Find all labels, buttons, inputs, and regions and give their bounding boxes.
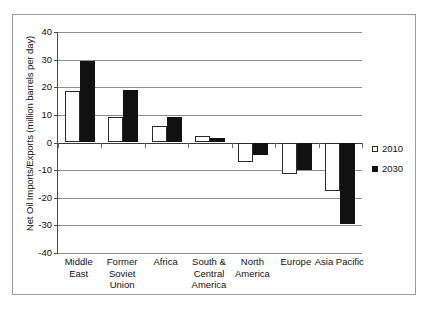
y-tick-label: 20 (22, 82, 52, 92)
y-tick-label: 10 (22, 110, 52, 120)
y-tick-label: -30 (22, 220, 52, 230)
bar-2010-europe (282, 143, 297, 175)
category-label-line: Asia Pacific (314, 256, 365, 268)
y-tick-label: -10 (22, 165, 52, 175)
x-tick-mark (101, 143, 102, 148)
x-tick-mark (319, 143, 320, 148)
y-tick-mark (54, 87, 58, 88)
y-tick-mark (54, 198, 58, 199)
gridline-30 (58, 60, 362, 61)
category-label-line: America (227, 268, 278, 280)
y-tick-mark (54, 170, 58, 171)
bar-2010-north-america (238, 143, 253, 162)
y-tick-label: 40 (22, 27, 52, 37)
y-tick-label: -40 (22, 248, 52, 258)
y-tick-label: 30 (22, 55, 52, 65)
x-tick-mark (362, 143, 363, 148)
bar-2030-africa (167, 117, 182, 143)
legend-item-2030: 2030 (372, 163, 403, 174)
legend-label: 2010 (382, 143, 403, 154)
gridline-0 (58, 143, 362, 144)
gridline-neg40 (58, 253, 362, 254)
x-tick-mark (58, 143, 59, 148)
legend-label: 2030 (382, 163, 403, 174)
y-tick-mark (54, 225, 58, 226)
bar-2030-south-central-america (210, 138, 225, 143)
bar-2030-europe (297, 143, 312, 171)
chart-figure: Net Oil Imports/Exports (million barrels… (0, 0, 429, 309)
bar-2030-former-soviet-union (123, 90, 138, 142)
gridline-neg30 (58, 225, 362, 226)
hollow-square-icon (372, 146, 378, 152)
x-tick-mark (275, 143, 276, 148)
bar-2030-asia-pacific (340, 143, 355, 224)
y-tick-mark (54, 60, 58, 61)
category-label-line: America (183, 279, 234, 291)
category-label-line: Soviet (96, 268, 147, 280)
gridline-20 (58, 87, 362, 88)
gridline-40 (58, 32, 362, 33)
y-tick-mark (54, 32, 58, 33)
x-tick-mark (145, 143, 146, 148)
bar-2010-middle-east (65, 91, 80, 142)
plot-area: 403020100-10-20-30-40 (57, 32, 361, 253)
bar-2010-former-soviet-union (108, 117, 123, 143)
chart-legend: 20102030 (372, 143, 403, 183)
bar-2030-middle-east (80, 61, 95, 142)
bar-2010-africa (152, 126, 167, 143)
x-tick-mark (188, 143, 189, 148)
category-label-asia-pacific: Asia Pacific (314, 256, 365, 268)
gridline-neg20 (58, 198, 362, 199)
filled-square-icon (372, 166, 378, 172)
y-tick-mark (54, 115, 58, 116)
y-tick-mark (54, 253, 58, 254)
x-tick-mark (232, 143, 233, 148)
y-tick-label: 0 (22, 138, 52, 148)
legend-item-2010: 2010 (372, 143, 403, 154)
y-tick-label: -20 (22, 193, 52, 203)
gridline-10 (58, 115, 362, 116)
gridline-neg10 (58, 170, 362, 171)
category-label-line: Union (96, 279, 147, 291)
bar-2010-asia-pacific (325, 143, 340, 191)
bar-2030-north-america (253, 143, 268, 155)
bar-2010-south-central-america (195, 136, 210, 143)
